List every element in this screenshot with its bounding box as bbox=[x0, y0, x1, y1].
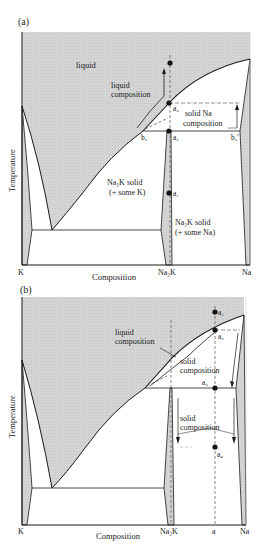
label-b2p: b₂′ bbox=[231, 133, 239, 142]
na2k-some-na-1: Na₂K solid bbox=[175, 218, 210, 227]
label-b2: b₂ bbox=[141, 133, 148, 142]
liquid-composition-b-2: composition bbox=[115, 337, 155, 346]
na2k-solid-region bbox=[161, 131, 172, 265]
na2k-some-k-1: Na₂K solid bbox=[107, 178, 142, 187]
label-a3-b: a₃ bbox=[202, 378, 208, 387]
panel-b: (b) liquid bbox=[7, 284, 250, 541]
solid-composition2-b-1: solid bbox=[180, 414, 196, 423]
liquid-composition-label-1: liquid bbox=[111, 81, 130, 90]
panel-a: (a) bbox=[7, 16, 252, 282]
tick-a-b: a bbox=[212, 527, 216, 536]
tick-na2k-b: Na₂K bbox=[160, 527, 178, 536]
label-a3: a₃ bbox=[173, 104, 179, 113]
point-a1 bbox=[166, 190, 171, 195]
label-a2-b: a₂ bbox=[218, 332, 224, 341]
liquid-composition-b-1: liquid bbox=[115, 328, 134, 337]
ylabel-a: Temperature bbox=[7, 149, 17, 192]
solid-na-label-2: composition bbox=[183, 119, 223, 128]
solid-composition-b-2: composition bbox=[180, 366, 220, 375]
point-a4-b bbox=[212, 444, 217, 449]
solid-composition2-b-2: composition bbox=[180, 423, 220, 432]
label-a1-b: a₁ bbox=[218, 308, 224, 317]
label-a2: a₂ bbox=[173, 133, 179, 142]
point-a3-b bbox=[212, 385, 217, 390]
ylabel-b: Temperature bbox=[7, 395, 17, 438]
point-top bbox=[167, 60, 172, 65]
point-a2 bbox=[166, 128, 171, 133]
xlabel-b: Composition bbox=[96, 531, 141, 541]
point-a3 bbox=[166, 100, 171, 105]
liquid-region-b bbox=[22, 297, 244, 488]
xlabel-a: Composition bbox=[92, 272, 137, 282]
na-solid-region-b bbox=[236, 315, 246, 525]
na-solid-region bbox=[240, 59, 250, 265]
tick-k-a: K bbox=[18, 268, 24, 277]
na2k-some-na-2: (+ some Na) bbox=[175, 228, 215, 237]
na2k-some-k-2: (+ some K) bbox=[109, 188, 146, 197]
phase-diagrams: (a) bbox=[0, 0, 268, 560]
na2k-solid-region-b bbox=[164, 388, 174, 525]
liquid-composition-label-2: composition bbox=[111, 90, 151, 99]
point-a1-b bbox=[212, 309, 217, 314]
tick-na-b: Na bbox=[240, 527, 250, 536]
panel-a-tag: (a) bbox=[18, 16, 29, 28]
liquid-label: liquid bbox=[76, 60, 97, 70]
tick-na2k-a: Na₂K bbox=[158, 268, 176, 277]
tick-k-b: K bbox=[18, 527, 24, 536]
tick-na-a: Na bbox=[242, 268, 252, 277]
solid-na-label-1: solid Na bbox=[185, 109, 212, 118]
solid-composition-b-1: solid bbox=[180, 357, 196, 366]
label-a4-b: a₄ bbox=[217, 450, 223, 459]
label-a1: a₁ bbox=[173, 189, 179, 198]
panel-b-tag: (b) bbox=[20, 284, 32, 296]
point-a2-b bbox=[212, 327, 217, 332]
